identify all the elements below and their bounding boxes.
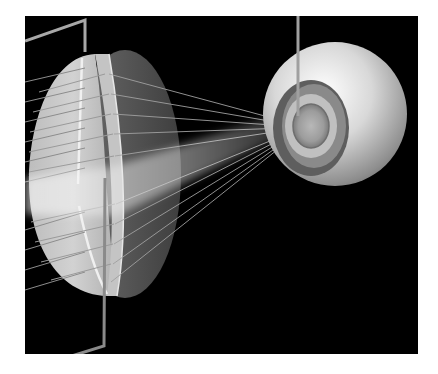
lens-eye-diagram <box>25 16 418 354</box>
lens-pointer-top <box>25 20 85 52</box>
illustration-panel: Convex lens focusing parallel light rays… <box>25 16 418 354</box>
